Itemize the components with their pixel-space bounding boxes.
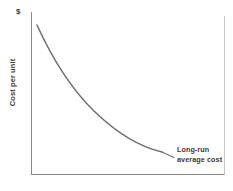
long-run-average-cost-curve	[37, 25, 162, 152]
chart-figure: $ Cost per unit Long-run average cost	[0, 0, 233, 191]
y-axis-unit-label: $	[16, 7, 20, 17]
annotation-leader-line	[162, 152, 174, 158]
curve-annotation: Long-run average cost	[177, 145, 222, 164]
y-axis-label: Cost per unit	[8, 43, 17, 123]
curve-annotation-line-2: average cost	[177, 155, 222, 165]
curve-annotation-line-1: Long-run	[177, 145, 222, 155]
